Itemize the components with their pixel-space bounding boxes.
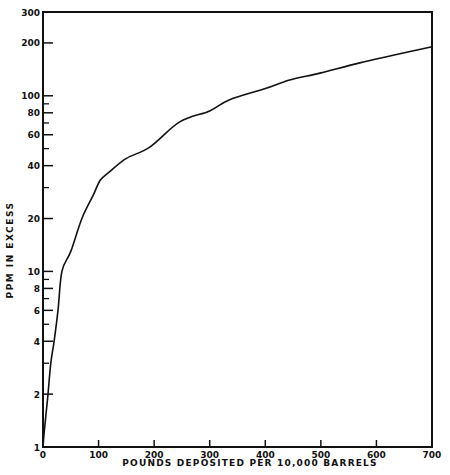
y-tick-label: 200	[21, 38, 40, 48]
y-tick-label: 10	[27, 267, 40, 277]
data-curve	[43, 47, 432, 447]
x-tick-label: 0	[40, 450, 46, 460]
y-axis-label: PPM IN EXCESS	[2, 170, 18, 330]
plot-frame	[43, 12, 432, 447]
y-tick-label: 4	[34, 337, 40, 347]
x-axis-label: POUNDS DEPOSITED PER 10,000 BARRELS	[100, 458, 400, 468]
plot-border	[43, 12, 432, 447]
y-tick-label: 6	[34, 306, 40, 316]
y-tick-label: 8	[34, 284, 40, 294]
y-tick-label: 60	[27, 130, 40, 140]
chart: 124681020406080100200300 010020030040050…	[0, 0, 450, 475]
y-axis-label-text: PPM IN EXCESS	[5, 202, 15, 299]
x-tick-label: 700	[423, 450, 442, 460]
y-tick-label: 20	[27, 214, 40, 224]
y-tick-label: 80	[27, 108, 40, 118]
y-tick-label: 100	[21, 91, 40, 101]
y-tick-label: 300	[21, 8, 40, 18]
y-tick-label: 40	[27, 161, 40, 171]
y-tick-label: 2	[34, 390, 40, 400]
x-axis-ticks: 0100200300400500600700	[40, 440, 442, 460]
